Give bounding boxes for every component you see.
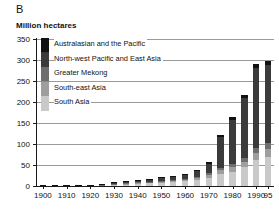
- bar-segment: [253, 148, 259, 153]
- bar: [182, 174, 188, 186]
- y-tick-label: 0: [4, 182, 30, 191]
- y-tick-label: 300: [4, 56, 30, 65]
- bar: [170, 176, 176, 187]
- x-tick-label: 1940: [129, 191, 147, 200]
- legend-item-label: North-west Pacific and East Asia: [54, 54, 163, 63]
- bar-segment: [241, 158, 247, 162]
- y-tick-label: 350: [4, 35, 30, 44]
- x-tick-mark: [138, 187, 139, 189]
- bar-segment: [241, 98, 247, 158]
- y-tick-mark: [33, 165, 36, 166]
- x-tick-mark: [114, 187, 115, 189]
- bar-segment: [123, 181, 129, 182]
- bar-segment: [265, 65, 271, 143]
- x-tick-label: 1930: [105, 191, 123, 200]
- bar-segment: [194, 178, 200, 180]
- bar-segment: [253, 68, 259, 148]
- bar-segment: [206, 173, 212, 175]
- x-tick-label: 1920: [81, 191, 99, 200]
- legend-item-label: South Asia: [54, 97, 91, 106]
- bar-segment: [217, 174, 223, 186]
- bar-segment: [182, 179, 188, 180]
- bar: [206, 162, 212, 186]
- bar-segment: [265, 149, 271, 157]
- bar-segment: [265, 157, 271, 186]
- bar-segment: [253, 160, 259, 186]
- bar-segment: [229, 172, 235, 186]
- bar-segment: [206, 175, 212, 178]
- bar: [217, 135, 223, 186]
- bar-segment: [146, 182, 152, 183]
- x-tick-mark: [161, 187, 162, 189]
- bar-segment: [170, 176, 176, 180]
- bar-segment: [182, 174, 188, 178]
- bar-segment: [182, 174, 188, 175]
- x-tick-label: 1910: [58, 191, 76, 200]
- x-tick-mark: [209, 187, 210, 189]
- y-tick-mark: [33, 144, 36, 145]
- bar: [194, 170, 200, 186]
- bar-segment: [170, 181, 176, 182]
- x-tick-mark: [67, 187, 68, 189]
- y-axis-caption: Million hectares: [16, 21, 76, 30]
- legend-item-label: Greater Mekong: [54, 68, 109, 77]
- bar: [241, 95, 247, 186]
- bar: [265, 61, 271, 186]
- bar-segment: [194, 171, 200, 176]
- panel-letter: B: [16, 3, 23, 15]
- bar-segment: [123, 184, 129, 185]
- x-tick-label: 1970: [200, 191, 218, 200]
- bar-segment: [158, 177, 164, 178]
- chart-figure: B Million hectares 350300250200150100500…: [0, 0, 279, 214]
- legend-item-label: South-east Asia: [54, 83, 108, 92]
- bar-segment: [170, 176, 176, 177]
- bar-segment: [229, 117, 235, 120]
- bar-segment: [217, 168, 223, 170]
- legend-item-label: Australasian and the Pacific: [54, 39, 147, 48]
- bar: [229, 117, 235, 186]
- bar-segment: [146, 182, 152, 183]
- bar-segment: [241, 95, 247, 98]
- x-tick-label: 1980: [224, 191, 242, 200]
- x-tick-mark: [233, 187, 234, 189]
- bar-segment: [194, 170, 200, 171]
- bar-segment: [135, 180, 141, 182]
- y-tick-label: 250: [4, 77, 30, 86]
- y-tick-mark: [33, 39, 36, 40]
- bar-segment: [217, 170, 223, 174]
- bar: [146, 179, 152, 186]
- y-tick-label: 100: [4, 140, 30, 149]
- y-tick-mark: [33, 81, 36, 82]
- bar-segment: [241, 162, 247, 167]
- bar-segment: [99, 184, 105, 185]
- x-tick-label: 1960: [176, 191, 194, 200]
- bar: [158, 177, 164, 186]
- bar-segment: [158, 181, 164, 182]
- x-tick-label: 1900: [34, 191, 52, 200]
- y-tick-label: 200: [4, 98, 30, 107]
- x-tick-label: 1990: [247, 191, 265, 200]
- bar-segment: [229, 167, 235, 172]
- bar: [253, 64, 259, 186]
- bar-segment: [265, 143, 271, 149]
- y-tick-label: 50: [4, 161, 30, 170]
- x-tick-mark: [185, 187, 186, 189]
- bar-segment: [170, 180, 176, 181]
- x-axis-line: [36, 186, 274, 187]
- bar-segment: [135, 183, 141, 184]
- bar-segment: [111, 183, 117, 184]
- bar-segment: [135, 180, 141, 181]
- bar-segment: [206, 178, 212, 186]
- bar-segment: [123, 181, 129, 183]
- bar-segment: [158, 178, 164, 181]
- bar-segment: [253, 64, 259, 68]
- bar-segment: [206, 162, 212, 163]
- x-tick-mark: [90, 187, 91, 189]
- bar-segment: [206, 164, 212, 174]
- bar-segment: [158, 181, 164, 182]
- y-tick-label: 150: [4, 119, 30, 128]
- x-tick-mark: [256, 187, 257, 189]
- legend-gradient-swatch: [41, 38, 49, 111]
- bar-segment: [241, 167, 247, 186]
- bar-segment: [111, 182, 117, 183]
